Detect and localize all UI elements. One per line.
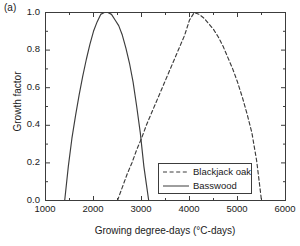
legend-label: Basswood [193, 181, 237, 191]
legend[interactable]: Blackjack oak Basswood [158, 163, 252, 194]
plot-area [0, 0, 300, 246]
growth-factor-chart: (a) Growth factor Growing degree-days (°… [0, 0, 300, 246]
legend-dashed-line-icon [162, 167, 190, 177]
legend-item-blackjack-oak[interactable]: Blackjack oak [162, 165, 251, 179]
legend-solid-line-icon [162, 181, 190, 191]
series-line-basswood [65, 13, 149, 201]
legend-item-basswood[interactable]: Basswood [162, 179, 237, 193]
legend-label: Blackjack oak [193, 167, 251, 177]
